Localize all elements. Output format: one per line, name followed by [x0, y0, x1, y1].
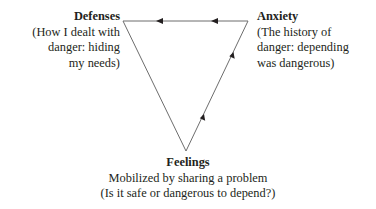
anxiety-node: Anxiety (The history of danger: dependin…	[257, 9, 349, 71]
defenses-desc-line: (How I dealt with	[32, 25, 120, 41]
edge-feelings-anxiety	[186, 21, 248, 151]
defenses-node: Defenses (How I dealt with danger: hidin…	[32, 9, 120, 71]
defenses-desc-line: danger: hiding	[32, 40, 120, 56]
edge-defenses-feelings	[123, 21, 186, 151]
arrow-left-icon	[156, 18, 163, 24]
feelings-desc-line: Mobilized by sharing a problem	[0, 171, 376, 187]
anxiety-desc-line: (The history of	[257, 25, 349, 41]
feelings-title: Feelings	[0, 155, 376, 171]
defenses-desc-line: my needs)	[32, 56, 120, 72]
arrow-left-icon	[211, 18, 218, 24]
anxiety-title: Anxiety	[257, 9, 349, 25]
anxiety-desc-line: danger: depending	[257, 40, 349, 56]
defenses-title: Defenses	[32, 9, 120, 25]
feelings-node: Feelings Mobilized by sharing a problem …	[0, 155, 376, 202]
anxiety-desc-line: was dangerous)	[257, 56, 349, 72]
feelings-desc-line: (Is it safe or dangerous to depend?)	[0, 186, 376, 202]
